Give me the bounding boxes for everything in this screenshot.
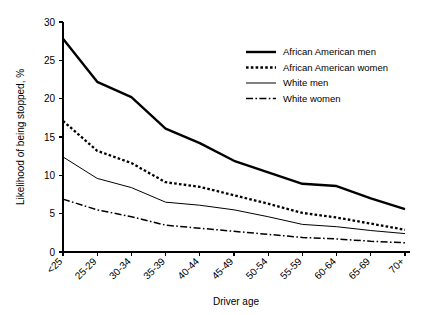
y-axis-title: Likelihood of being stopped, % [15, 69, 26, 205]
x-axis: <2525-2930-3435-3940-4445-4950-5455-5960… [45, 252, 410, 307]
x-tick-label: 25-29 [73, 255, 99, 281]
y-tick-label: 30 [44, 17, 56, 28]
x-tick-label: 40-44 [175, 255, 201, 281]
legend-label: White men [283, 77, 328, 88]
x-tick-label: 65-69 [346, 255, 372, 281]
y-axis: 051015202530 Likelihood of being stopped… [15, 17, 63, 258]
chart-figure: 051015202530 Likelihood of being stopped… [0, 0, 435, 315]
y-tick-label: 0 [49, 247, 55, 258]
legend-label: White women [283, 93, 341, 104]
legend-label: African American women [283, 62, 388, 73]
x-tick-label: 70+ [387, 256, 407, 276]
x-tick-label: <25 [45, 255, 65, 275]
y-tick-group: 051015202530 [44, 17, 63, 258]
x-axis-title: Driver age [213, 296, 260, 307]
x-tick-label: 50-54 [244, 255, 270, 281]
y-tick-label: 25 [44, 55, 56, 66]
line-chart: 051015202530 Likelihood of being stopped… [0, 0, 435, 315]
legend-label: African American men [283, 46, 376, 57]
y-tick-label: 5 [49, 208, 55, 219]
y-tick-label: 20 [44, 93, 56, 104]
y-tick-label: 10 [44, 170, 56, 181]
x-tick-group: <2525-2930-3435-3940-4445-4950-5455-5960… [45, 252, 407, 282]
series-line [63, 121, 405, 230]
x-tick-label: 30-34 [107, 255, 133, 281]
x-tick-label: 35-39 [141, 255, 167, 281]
chart-legend: African American menAfrican American wom… [246, 46, 388, 104]
y-tick-label: 15 [44, 132, 56, 143]
x-tick-label: 45-49 [210, 255, 236, 281]
x-tick-label: 55-59 [278, 255, 304, 281]
series-line [63, 157, 405, 234]
x-tick-label: 60-64 [312, 255, 338, 281]
